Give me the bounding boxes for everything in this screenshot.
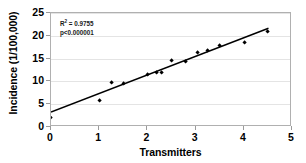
scatter-chart: Incidence (1/100,000) 0510152025 R2 = 0.… (0, 0, 306, 163)
r-squared-value: = 0.9755 (67, 20, 93, 27)
x-tick-label: 4 (231, 131, 255, 143)
x-tick-label: 1 (86, 131, 110, 143)
x-tick-mark (98, 126, 99, 130)
y-tick-label: 15 (24, 53, 44, 63)
x-tick-label: 2 (134, 131, 158, 143)
y-tick-label: 10 (24, 75, 44, 85)
r-squared-text: R2 = 0.9755 (60, 18, 94, 29)
y-tick-label: 0 (24, 121, 44, 131)
y-tick-label: 5 (24, 98, 44, 108)
x-tick-label: 5 (279, 131, 303, 143)
y-tick-label: 20 (24, 30, 44, 40)
p-value-text: p<0.000001 (60, 29, 94, 38)
x-tick-label: 3 (183, 131, 207, 143)
statistics-annotation: R2 = 0.9755 p<0.000001 (60, 18, 94, 37)
x-tick-mark (146, 126, 147, 130)
x-tick-mark (50, 126, 51, 130)
plot-area: R2 = 0.9755 p<0.000001 (50, 12, 291, 126)
y-axis-title: Incidence (1/100,000) (7, 0, 19, 128)
x-tick-mark (243, 126, 244, 130)
y-tick-label: 25 (24, 7, 44, 17)
x-tick-mark (195, 126, 196, 130)
x-tick-label: 0 (38, 131, 62, 143)
x-tick-mark (291, 126, 292, 130)
x-axis-title: Transmitters (50, 146, 291, 158)
data-point (97, 98, 102, 103)
